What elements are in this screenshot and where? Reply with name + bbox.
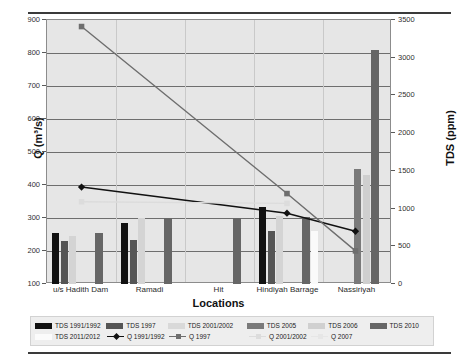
legend-item: Q 1997 bbox=[169, 333, 249, 340]
legend-label: Q 1997 bbox=[189, 333, 210, 340]
legend-item: TDS 1991/1992 bbox=[35, 322, 106, 329]
legend-swatch bbox=[106, 323, 123, 329]
y-axis-right-tick-mark bbox=[391, 283, 395, 284]
y-axis-right-tick-mark bbox=[391, 57, 395, 58]
legend-item: Q 2001/2002 bbox=[249, 333, 311, 340]
legend-label: TDS 1997 bbox=[126, 322, 155, 329]
y-axis-left-tick-label: 800 bbox=[14, 48, 40, 57]
line-series-marker bbox=[284, 201, 290, 207]
y-axis-right-tick-mark bbox=[391, 19, 395, 20]
y-axis-left-tick-label: 600 bbox=[14, 114, 40, 123]
legend-label: TDS 1991/1992 bbox=[55, 322, 101, 329]
x-axis-tick-label: Hindiyah Barrage bbox=[257, 285, 319, 294]
legend-marker bbox=[176, 334, 181, 339]
y-axis-left-tick-label: 500 bbox=[14, 147, 40, 156]
x-axis-title: Locations bbox=[46, 297, 391, 309]
y-axis-right-tick-label: 500 bbox=[398, 241, 432, 250]
top-divider bbox=[28, 12, 451, 14]
line-series-marker bbox=[353, 248, 359, 254]
legend-item: TDS 2011/2012 bbox=[35, 333, 107, 340]
legend-label: TDS 2011/2012 bbox=[55, 333, 100, 340]
y-axis-right-tick-label: 3500 bbox=[398, 15, 432, 24]
y-axis-right-tick-mark bbox=[391, 245, 395, 246]
legend-label: Q 1991/1992 bbox=[127, 333, 165, 340]
line-series-overlay bbox=[47, 20, 390, 282]
y-axis-right-tick-label: 2500 bbox=[398, 90, 432, 99]
legend-line-swatch bbox=[249, 333, 266, 340]
y-axis-right-tick-mark bbox=[391, 208, 395, 209]
legend-marker bbox=[256, 334, 261, 339]
legend-line-swatch bbox=[107, 333, 124, 340]
legend-swatch bbox=[35, 323, 52, 329]
line-series-marker bbox=[283, 210, 290, 217]
legend-marker bbox=[318, 334, 323, 339]
line-series-marker bbox=[79, 24, 85, 30]
legend-label: Q 2007 bbox=[331, 333, 352, 340]
legend-item: TDS 2001/2002 bbox=[168, 322, 247, 329]
y-axis-right-tick-label: 0 bbox=[398, 279, 432, 288]
legend-swatch bbox=[35, 334, 52, 340]
line-series-marker bbox=[78, 183, 85, 190]
line-series-path bbox=[82, 202, 287, 204]
legend-label: Q 2001/2002 bbox=[269, 333, 307, 340]
legend-label: TDS 2005 bbox=[267, 322, 296, 329]
y-axis-left-tick-label: 200 bbox=[14, 246, 40, 255]
line-series-marker bbox=[352, 228, 359, 235]
y-axis-right-tick-mark bbox=[391, 170, 395, 171]
y-axis-left-tick-label: 300 bbox=[14, 213, 40, 222]
y-axis-right-tick-label: 1500 bbox=[398, 165, 432, 174]
x-axis-tick-label: Hit bbox=[214, 285, 224, 294]
plot-area bbox=[46, 19, 391, 283]
line-series-marker bbox=[284, 191, 290, 197]
y-axis-right-title: TDS (ppm) bbox=[444, 78, 456, 198]
legend-swatch bbox=[168, 323, 185, 329]
chart-figure: Q (m³/s) TDS (ppm) Locations 10020030040… bbox=[0, 0, 459, 362]
legend-label: TDS 2006 bbox=[328, 322, 357, 329]
line-series-path bbox=[82, 27, 356, 251]
y-axis-left-tick-label: 400 bbox=[14, 180, 40, 189]
legend-swatch bbox=[247, 323, 264, 329]
x-axis-tick-label: Nassiriyah bbox=[338, 285, 375, 294]
y-axis-left-tick-mark bbox=[42, 283, 46, 284]
legend-label: TDS 2010 bbox=[390, 322, 419, 329]
y-axis-right-tick-mark bbox=[391, 94, 395, 95]
y-axis-left-tick-label: 900 bbox=[14, 15, 40, 24]
legend-item: TDS 1997 bbox=[106, 322, 167, 329]
legend-swatch bbox=[370, 323, 387, 329]
legend-line-swatch bbox=[169, 333, 186, 340]
legend-item: TDS 2010 bbox=[370, 322, 429, 329]
legend-item: TDS 2005 bbox=[247, 322, 308, 329]
y-axis-right-tick-label: 3000 bbox=[398, 52, 432, 61]
legend-item: TDS 2006 bbox=[308, 322, 369, 329]
legend-swatch bbox=[308, 323, 325, 329]
legend-line-swatch bbox=[311, 333, 328, 340]
y-axis-left-tick-label: 700 bbox=[14, 81, 40, 90]
x-axis-tick-label: u/s Hadith Dam bbox=[53, 285, 108, 294]
legend-marker bbox=[112, 333, 119, 340]
legend-row-2: TDS 2011/2012Q 1991/1992Q 1997Q 2001/200… bbox=[35, 331, 429, 342]
y-axis-right-tick-label: 1000 bbox=[398, 203, 432, 212]
chart-legend: TDS 1991/1992TDS 1997TDS 2001/2002TDS 20… bbox=[30, 316, 434, 346]
y-axis-left-tick-label: 100 bbox=[14, 279, 40, 288]
line-series-path bbox=[82, 187, 356, 231]
bottom-divider bbox=[28, 352, 451, 354]
legend-item: Q 2007 bbox=[311, 333, 373, 340]
y-axis-right-tick-label: 2000 bbox=[398, 128, 432, 137]
legend-item: Q 1991/1992 bbox=[107, 333, 169, 340]
legend-label: TDS 2001/2002 bbox=[188, 322, 234, 329]
y-axis-right-tick-mark bbox=[391, 132, 395, 133]
line-series-marker bbox=[79, 199, 85, 205]
legend-row-1: TDS 1991/1992TDS 1997TDS 2001/2002TDS 20… bbox=[35, 320, 429, 331]
x-axis-tick-label: Ramadi bbox=[136, 285, 164, 294]
